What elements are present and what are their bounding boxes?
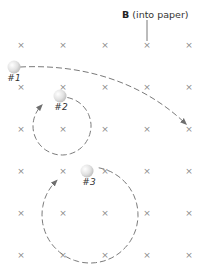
particle-1-path <box>20 67 186 124</box>
field-x-marker: × <box>143 40 151 50</box>
field-x-marker: × <box>17 208 25 218</box>
particle-3 <box>81 165 94 178</box>
field-x-marker: × <box>101 124 109 134</box>
field-x-marker: × <box>185 166 193 176</box>
field-x-marker: × <box>143 208 151 218</box>
field-x-marker: × <box>59 250 67 260</box>
field-x-marker: × <box>17 82 25 92</box>
field-x-marker: × <box>59 40 67 50</box>
field-x-marker: × <box>185 250 193 260</box>
field-x-marker: × <box>101 250 109 260</box>
field-x-marker: × <box>17 166 25 176</box>
field-x-marker: × <box>185 40 193 50</box>
field-x-marker: × <box>101 40 109 50</box>
particle-1 <box>8 61 21 74</box>
field-label: B (into paper) <box>122 9 189 20</box>
field-x-marker: × <box>59 208 67 218</box>
field-x-marker: × <box>185 82 193 92</box>
field-x-marker: × <box>59 124 67 134</box>
field-x-marker: × <box>101 208 109 218</box>
field-x-marker: × <box>143 166 151 176</box>
field-x-marker: × <box>101 82 109 92</box>
field-description: (into paper) <box>132 9 188 20</box>
field-x-marker: × <box>185 208 193 218</box>
field-x-marker: × <box>17 124 25 134</box>
field-x-marker: × <box>143 82 151 92</box>
particle-1-label: #1 <box>7 73 20 83</box>
field-x-marker: × <box>101 166 109 176</box>
field-x-marker: × <box>143 250 151 260</box>
field-x-marker: × <box>59 166 67 176</box>
field-x-marker: × <box>17 40 25 50</box>
particle-paths <box>20 67 186 263</box>
field-grid: ×××××××××××××××××××××××××××××× <box>17 40 193 260</box>
particle-3-label: #3 <box>82 177 95 187</box>
magnetic-field-diagram: ×××××××××××××××××××××××××××××× <box>0 0 202 279</box>
particle-2-label: #2 <box>54 102 67 112</box>
field-x-marker: × <box>143 124 151 134</box>
field-x-marker: × <box>17 250 25 260</box>
particle-2 <box>54 90 67 103</box>
field-symbol: B <box>122 9 129 20</box>
field-x-marker: × <box>185 124 193 134</box>
